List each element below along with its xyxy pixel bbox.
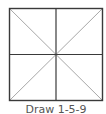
diagram-figure: Draw 1-5-9 xyxy=(0,0,106,114)
diagram-caption: Draw 1-5-9 xyxy=(0,104,106,114)
square-grid-diagram xyxy=(0,0,106,114)
